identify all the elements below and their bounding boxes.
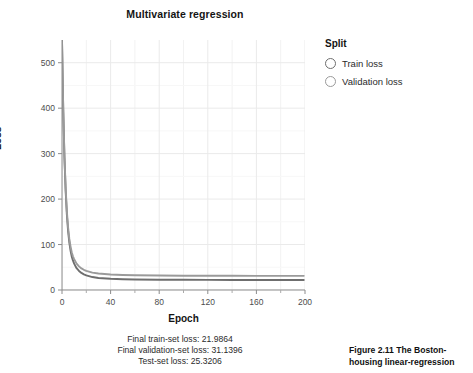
x-tick-label: 160 <box>249 297 263 307</box>
plot-panel <box>62 40 305 290</box>
x-axis-title: Epoch <box>62 313 305 324</box>
series-lines <box>62 40 304 280</box>
x-tick-label: 120 <box>201 297 215 307</box>
chart-title: Multivariate regression <box>60 8 310 20</box>
y-tick-label: 0 <box>22 285 55 295</box>
x-tick-label: 80 <box>154 297 163 307</box>
legend-item-validation-loss[interactable]: Validation loss <box>325 72 465 90</box>
plot-svg <box>62 40 305 290</box>
x-tick-label: 200 <box>298 297 312 307</box>
x-tick-label: 40 <box>106 297 115 307</box>
legend-item-label: Validation loss <box>342 76 403 87</box>
legend-item-label: Train loss <box>342 58 383 69</box>
y-tick-label: 500 <box>22 58 55 68</box>
legend-title: Split <box>325 38 465 49</box>
caption-number: Figure 2.11 <box>349 345 394 355</box>
legend-item-train-loss[interactable]: Train loss <box>325 54 465 72</box>
y-tick-label: 300 <box>22 149 55 159</box>
y-tick-label: 200 <box>22 194 55 204</box>
figure-container: Multivariate regression Loss Epoch 01002… <box>0 0 473 373</box>
summary-block: Final train-set loss: 21.9864Final valid… <box>40 334 320 367</box>
summary-line: Final train-set loss: 21.9864 <box>40 334 320 345</box>
y-axis-title: Loss <box>0 127 3 150</box>
summary-line: Test-set loss: 25.3206 <box>40 356 320 367</box>
legend-marker-circle-icon <box>325 76 336 87</box>
legend-items: Train lossValidation loss <box>325 54 465 90</box>
y-tick-label: 100 <box>22 240 55 250</box>
legend: Split Train lossValidation loss <box>325 38 465 90</box>
y-tick-label: 400 <box>22 103 55 113</box>
x-tick-label: 0 <box>60 297 65 307</box>
grid-minor-lines <box>62 40 305 290</box>
book-figure-caption: Figure 2.11 The Boston-housing linear-re… <box>349 345 471 368</box>
plot-area <box>62 40 305 290</box>
series-line-validation <box>62 41 304 276</box>
summary-line: Final validation-set loss: 31.1396 <box>40 345 320 356</box>
series-line-train <box>62 40 304 280</box>
legend-marker-circle-icon <box>325 58 336 69</box>
